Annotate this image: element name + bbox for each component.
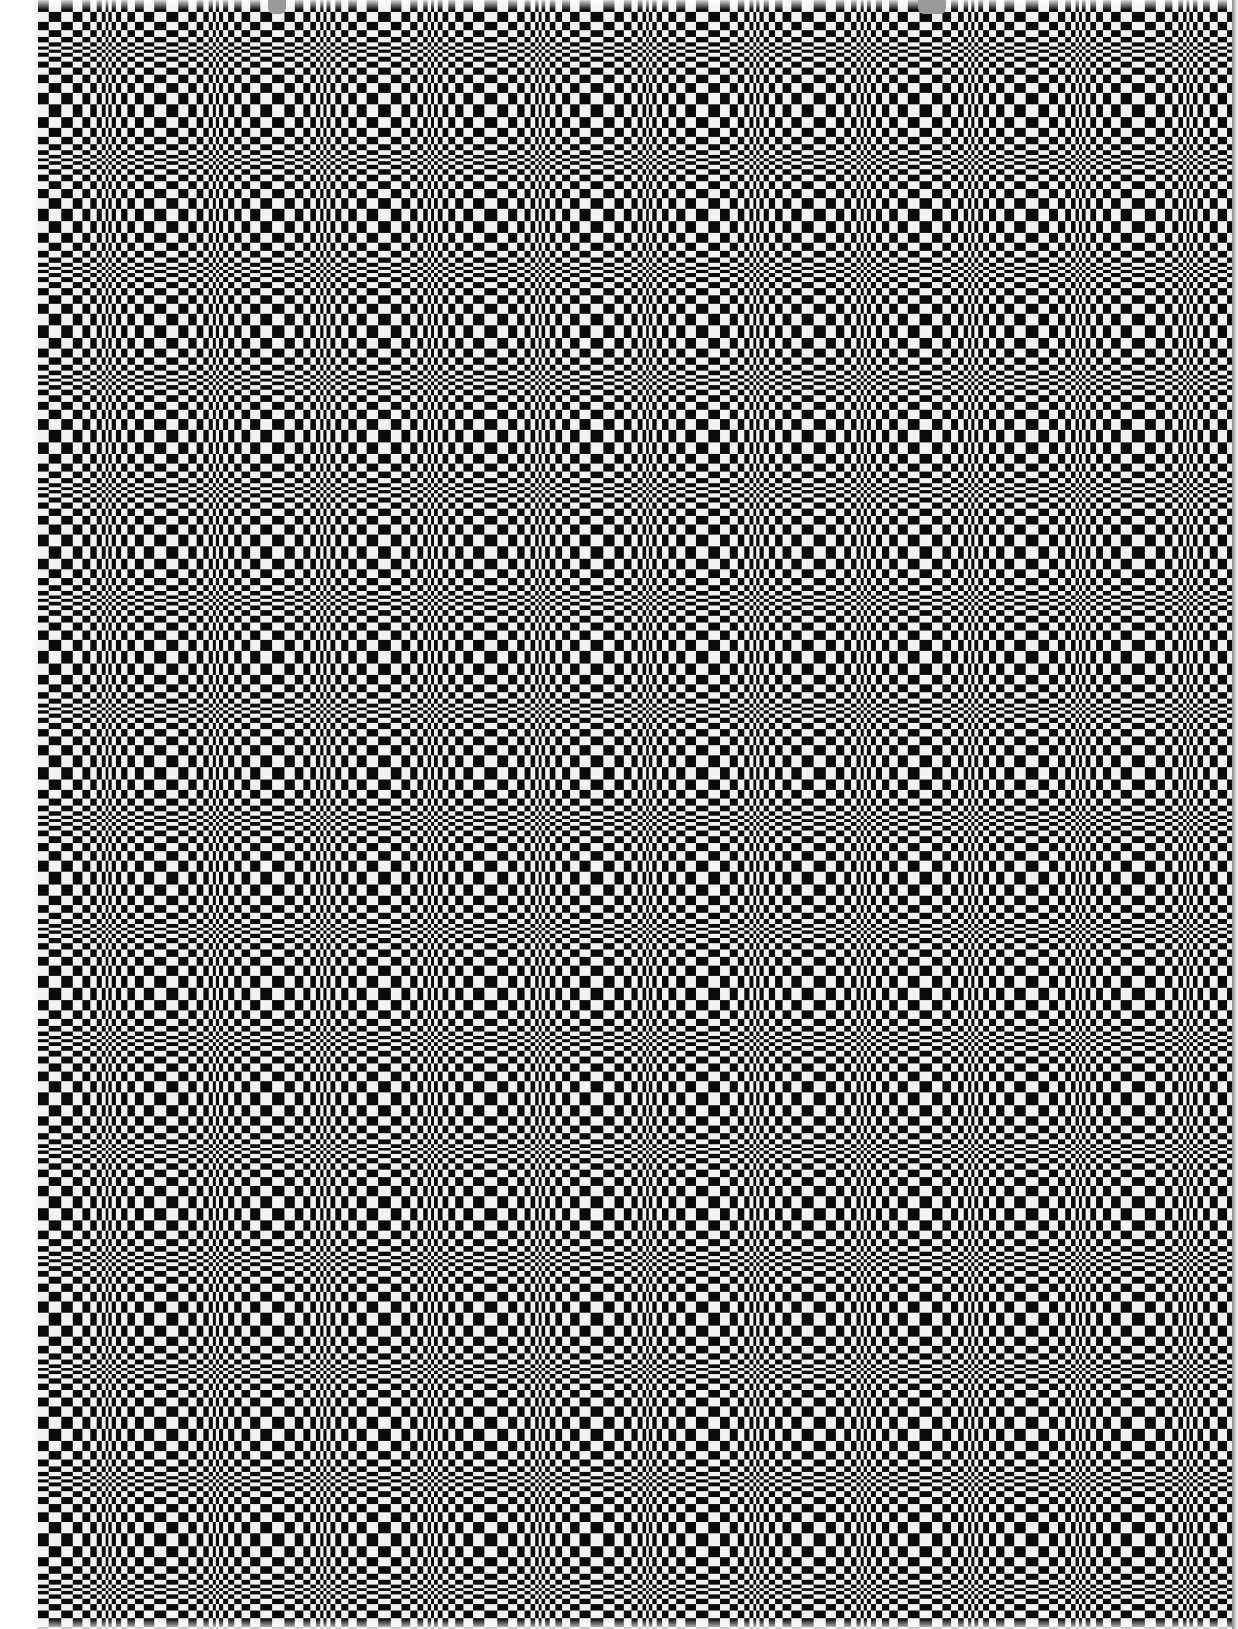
right-edge-shadow — [1232, 0, 1238, 1629]
left-margin — [0, 0, 38, 1629]
checkerboard-sheet — [38, 0, 1234, 1629]
binder-tab-right — [918, 0, 946, 14]
warped-checkerboard-pattern — [38, 0, 1234, 1629]
binder-tab-left — [268, 0, 286, 14]
